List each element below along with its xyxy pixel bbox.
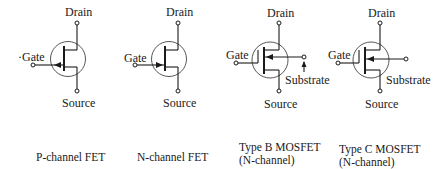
drain-terminal-icon [277,21,281,25]
drain-terminal-icon [75,21,79,25]
type-b-drain-label: Drain [267,7,294,20]
type-c-caption-line2: (N-channel) [339,156,395,168]
p-channel-envelope-circle [51,42,86,77]
drain-terminal-icon [378,21,382,25]
substrate-arrow-icon [367,56,374,62]
p-channel-drain-label: Drain [65,6,92,19]
n-channel-envelope-circle [152,42,187,77]
drain-terminal-icon [176,21,180,25]
type-c-caption-line1: Type C MOSFET [339,143,421,155]
n-channel-drain-label: Drain [166,6,193,19]
n-channel-caption: N-channel FET [137,151,208,163]
type-c-drain-label: Drain [368,7,395,20]
p-channel-source-label: Source [62,97,95,110]
type-b-envelope-circle [252,42,288,78]
type-c-gate-label: Gate [328,49,351,62]
n-channel-arrow-icon [156,62,163,68]
type-c-source-label: Source [365,98,398,111]
p-channel-gate-label: Gate [22,51,45,64]
source-terminal-icon [75,89,79,93]
source-terminal-icon [378,89,382,93]
source-terminal-icon [277,89,281,93]
type-b-gate-label: Gate [226,49,249,62]
type-b-substrate-label: Substrate [285,74,330,87]
substrate-terminal-icon [302,55,306,59]
n-channel-source-label: Source [163,97,196,110]
type-b-caption-line1: Type B MOSFET [239,141,321,153]
type-b-caption-line2: (N-channel) [239,154,295,166]
n-channel-gate-label: Gate [124,52,147,65]
source-terminal-icon [176,89,180,93]
type-c-substrate-label: Substrate [386,74,431,87]
type-b-source-label: Source [264,98,297,111]
p-channel-arrow-icon [54,62,61,68]
substrate-pointer-arrow-icon [302,61,307,67]
p-channel-caption: P-channel FET [36,151,105,163]
substrate-terminal-icon [404,57,408,61]
substrate-arrow-icon [266,54,273,60]
